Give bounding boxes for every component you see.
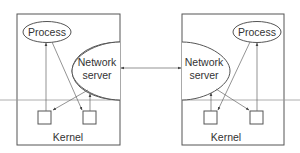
network-server-right-label-2: server <box>189 69 219 81</box>
network-server-right-label-1: Network <box>185 56 224 68</box>
machine-right: Process Network server Kernel <box>182 14 300 145</box>
kernel-right-label: Kernel <box>211 131 241 143</box>
process-right[interactable]: Process <box>233 22 281 43</box>
network-server-right[interactable]: Network server <box>182 42 230 100</box>
network-server-left[interactable]: Network server <box>72 42 120 100</box>
kernel-port-right-2[interactable] <box>250 111 263 124</box>
process-right-label: Process <box>238 26 276 38</box>
kernel-left-label: Kernel <box>53 131 83 143</box>
process-left-label: Process <box>28 26 66 38</box>
diagram-canvas: Process Network server Kernel Process Ne… <box>0 0 300 153</box>
machine-left: Process Network server Kernel <box>0 14 120 145</box>
arrow-server-to-port2-right <box>216 89 249 110</box>
kernel-port-left-1[interactable] <box>38 111 51 124</box>
kernel-port-right-1[interactable] <box>204 111 217 124</box>
network-server-left-label-1: Network <box>78 56 117 68</box>
kernel-port-left-2[interactable] <box>83 111 96 124</box>
process-left[interactable]: Process <box>23 22 71 43</box>
network-server-left-label-2: server <box>82 69 112 81</box>
